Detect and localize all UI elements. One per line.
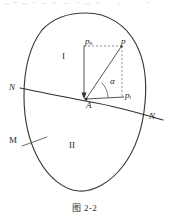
angle-alpha-arc	[102, 83, 109, 98]
label-angle-alpha: α	[110, 77, 115, 86]
figure-caption: 图 2-2	[0, 201, 169, 214]
medium-leader-line	[22, 137, 47, 146]
label-normal-component: pn	[85, 37, 92, 47]
tangential-component-vector	[86, 97, 124, 99]
label-region-one: I	[62, 52, 65, 61]
resultant-vector-Ap	[86, 47, 121, 99]
figure-2-2: pn p pt α A N N M I II 图 2-2	[0, 0, 169, 221]
label-interface-N-right: N	[149, 112, 155, 121]
label-region-two: II	[69, 141, 75, 150]
label-tangential-component-subscript: t	[130, 94, 132, 100]
label-point-A: A	[86, 101, 92, 110]
label-medium-M: M	[9, 136, 17, 145]
label-point-p: p	[121, 37, 126, 46]
figure-drawing	[0, 0, 169, 221]
label-normal-component-subscript: n	[90, 40, 93, 46]
label-interface-N-left: N	[9, 83, 15, 92]
label-tangential-component: pt	[125, 91, 131, 101]
